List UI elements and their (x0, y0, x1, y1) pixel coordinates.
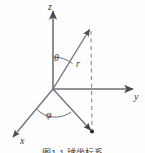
x-axis-label: x (20, 136, 24, 146)
z-axis-label: z (48, 2, 52, 12)
r-vector-label: r (76, 59, 80, 69)
xy-projection-line (53, 89, 91, 130)
phi-arc (37, 109, 72, 117)
spherical-coordinate-figure: z y x θ φ r 图1-1 球坐标系 (0, 0, 145, 153)
theta-angle-label: θ (54, 53, 59, 63)
projected-point-marker (90, 129, 94, 133)
y-axis-label: y (134, 92, 138, 102)
figure-caption: 图1-1 球坐标系 (0, 146, 145, 153)
coordinate-diagram (0, 0, 145, 153)
vertical-dashed-line (91, 31, 92, 130)
phi-angle-label: φ (46, 110, 52, 120)
